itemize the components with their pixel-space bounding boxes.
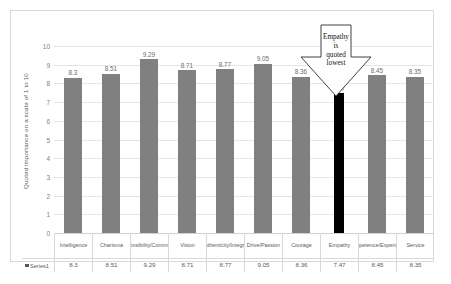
bar-highlight: 7.47	[334, 93, 344, 233]
category-cell: Drive/Passion	[244, 233, 282, 258]
y-axis-tick-label: 5	[46, 136, 50, 143]
y-axis-tick-label: 9	[46, 61, 50, 68]
value-cell: 8.35	[396, 259, 434, 272]
bar-slot: 8.51	[92, 46, 130, 233]
callout-text: Empathy is quoted lowest	[299, 33, 373, 68]
bar-value-label: 8.51	[105, 65, 117, 72]
data-table: IntelligenceCharismaResponsibility/Commi…	[22, 233, 434, 272]
callout-line-2: is	[299, 42, 373, 51]
legend-swatch-icon	[25, 264, 29, 268]
category-cell: Empathy	[320, 233, 358, 258]
category-cell: Vision	[168, 233, 206, 258]
bar-group: 8.38.519.298.718.779.058.367.478.458.35	[54, 46, 434, 233]
value-row: Series1 8.38.519.298.718.779.058.367.478…	[22, 258, 434, 272]
category-cell: Competence/Experience	[358, 233, 396, 258]
bar-value-label: 9.29	[143, 51, 155, 58]
category-cell: Service	[396, 233, 434, 258]
category-cell: Responsibility/Commitment	[130, 233, 168, 258]
value-cell: 8.77	[206, 259, 244, 272]
bar-slot: 8.35	[396, 46, 434, 233]
category-row: IntelligenceCharismaResponsibility/Commi…	[22, 233, 434, 258]
bar: 8.71	[178, 70, 195, 233]
value-cell: 8.36	[282, 259, 320, 272]
bar: 8.35	[406, 77, 423, 233]
callout-line-3: quoted	[299, 51, 373, 60]
y-axis-tick-label: 7	[46, 99, 50, 106]
bar-slot: 8.77	[206, 46, 244, 233]
chart-frame: Quoted importance on a scale of 1 to 10 …	[10, 10, 434, 262]
bar: 8.45	[368, 75, 385, 233]
bar: 9.05	[254, 64, 271, 233]
y-axis-title: Quoted importance on a scale of 1 to 10	[22, 51, 34, 211]
bar-slot: 8.3	[54, 46, 92, 233]
category-cell: Intelligence	[54, 233, 92, 258]
y-axis-tick-label: 8	[46, 80, 50, 87]
value-cell: 9.05	[244, 259, 282, 272]
y-axis-tick-label: 10	[43, 43, 50, 50]
legend-label: Series1	[30, 263, 49, 269]
bar-value-label: 8.3	[69, 69, 78, 76]
bar-value-label: 8.71	[181, 62, 193, 69]
callout-line-1: Empathy	[299, 33, 373, 42]
table-corner-blank	[22, 233, 54, 258]
y-axis-tick-label: 6	[46, 117, 50, 124]
y-axis-tick-label: 3	[46, 173, 50, 180]
bar-value-label: 9.05	[257, 55, 269, 62]
bar-value-label: 8.77	[219, 61, 231, 68]
value-cell: 8.51	[92, 259, 130, 272]
y-axis-tick-label: 2	[46, 192, 50, 199]
value-cell: 8.71	[168, 259, 206, 272]
plot-area: 109876543210 8.38.519.298.718.779.058.36…	[54, 46, 434, 233]
value-cell: 7.47	[320, 259, 358, 272]
bar: 8.77	[216, 69, 233, 233]
legend-entry: Series1	[22, 259, 54, 272]
bar: 8.36	[292, 77, 309, 233]
category-cell: Courage	[282, 233, 320, 258]
callout-line-4: lowest	[299, 59, 373, 68]
bar-slot: 8.71	[168, 46, 206, 233]
y-axis-tick-label: 4	[46, 155, 50, 162]
bar: 8.3	[64, 78, 81, 233]
value-cell: 9.29	[130, 259, 168, 272]
bar: 8.51	[102, 74, 119, 233]
value-cell: 8.3	[54, 259, 92, 272]
category-cell: Authenticity/Integrity	[206, 233, 244, 258]
bar: 9.29	[140, 59, 157, 233]
bar-value-label: 8.35	[409, 68, 421, 75]
bar-slot: 9.29	[130, 46, 168, 233]
callout-arrow-annotation: Empathy is quoted lowest	[299, 24, 373, 98]
y-axis-tick-label: 1	[46, 211, 50, 218]
category-cell: Charisma	[92, 233, 130, 258]
bar-slot: 9.05	[244, 46, 282, 233]
value-cell: 8.45	[358, 259, 396, 272]
